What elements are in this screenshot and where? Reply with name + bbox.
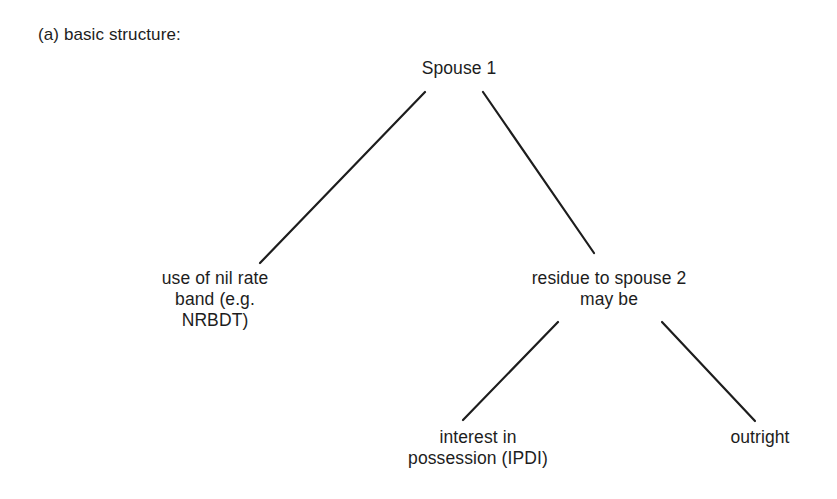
edge-spouse1-to-nilrateband	[260, 92, 425, 263]
node-ipdi-line-1: interest in	[363, 427, 593, 448]
node-use-of-nil-rate-band: use of nil rate band (e.g. NRBDT)	[115, 268, 315, 331]
node-residue-line-1: residue to spouse 2	[494, 268, 724, 289]
node-nrb-line-2: band (e.g.	[115, 289, 315, 310]
edge-residue-to-outright	[662, 322, 755, 421]
node-nrb-line-1: use of nil rate	[115, 268, 315, 289]
diagram-canvas: (a) basic structure: Spouse 1 use of nil…	[0, 0, 837, 499]
node-spouse-1: Spouse 1	[359, 58, 559, 79]
figure-caption: (a) basic structure:	[38, 24, 181, 45]
node-ipdi-line-2: possession (IPDI)	[363, 448, 593, 469]
edge-spouse1-to-residue	[483, 92, 594, 253]
node-outright-line-1: outright	[700, 427, 820, 448]
node-outright: outright	[700, 427, 820, 448]
node-residue-line-2: may be	[494, 289, 724, 310]
node-spouse-1-line-1: Spouse 1	[359, 58, 559, 79]
edge-residue-to-ipdi	[463, 322, 558, 420]
node-interest-in-possession: interest in possession (IPDI)	[363, 427, 593, 469]
node-nrb-line-3: NRBDT)	[115, 310, 315, 331]
node-residue-to-spouse-2: residue to spouse 2 may be	[494, 268, 724, 310]
